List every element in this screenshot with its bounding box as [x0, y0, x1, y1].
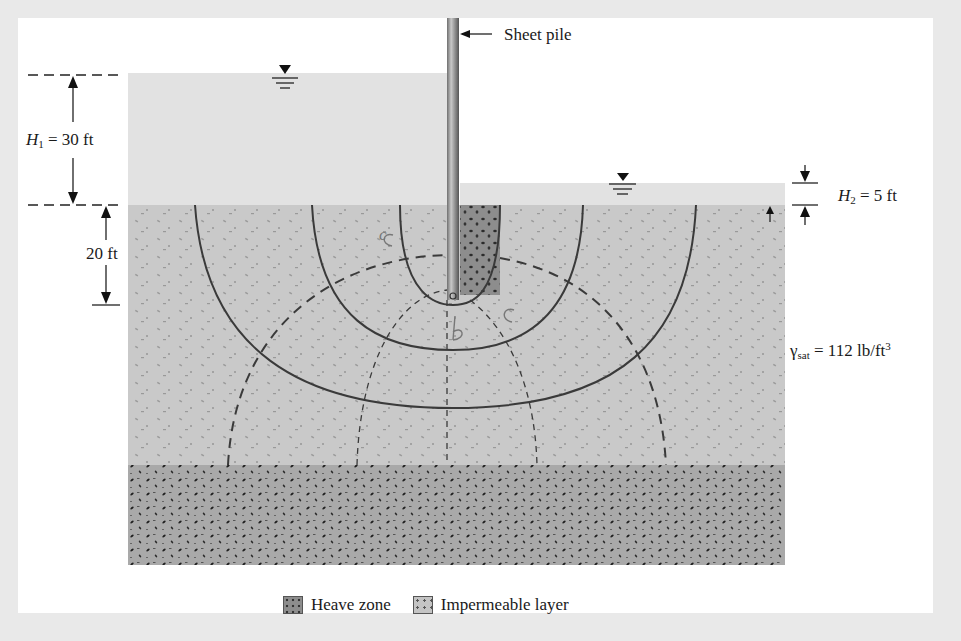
gamma-subscript: sat — [798, 349, 810, 361]
impermeable-layer — [128, 465, 785, 565]
depth-label: 20 ft — [86, 245, 118, 262]
legend: Heave zone Impermeable layer — [283, 595, 569, 615]
sheet-pile-label: Sheet pile — [504, 26, 572, 43]
flow-net-diagram — [0, 0, 961, 641]
h2-label: H2 = 5 ft — [838, 187, 897, 206]
gamma-value: = 112 lb/ft — [810, 341, 886, 360]
h2-symbol: H — [838, 186, 850, 205]
handwritten-c-left: c — [379, 226, 387, 243]
heave-zone — [460, 205, 500, 295]
h2-value: = 5 ft — [856, 186, 897, 205]
upstream-water — [128, 73, 448, 205]
impermeable-layer-swatch-icon — [413, 596, 433, 614]
h1-value: = 30 ft — [44, 130, 94, 149]
legend-impermeable-layer: Impermeable layer — [441, 595, 569, 615]
h1-symbol: H — [26, 130, 38, 149]
gamma-sat-label: γsat = 112 lb/ft3 — [790, 341, 891, 361]
gamma-symbol: γ — [790, 341, 798, 360]
sheet-pile — [447, 18, 459, 300]
heave-zone-swatch-icon — [283, 596, 303, 614]
legend-heave-zone: Heave zone — [311, 595, 391, 615]
gamma-superscript: 3 — [885, 340, 891, 352]
h1-label: H1 = 30 ft — [26, 131, 94, 150]
